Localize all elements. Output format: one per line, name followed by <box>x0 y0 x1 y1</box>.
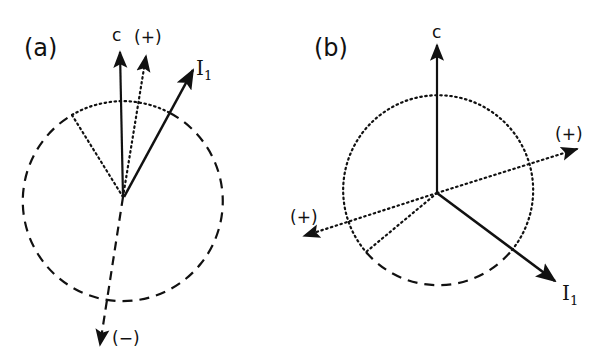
panel-b-plus-left-label: (+) <box>290 207 318 227</box>
panel-b-plus-right-vector <box>437 149 577 193</box>
panel-b-plus-left-vector <box>304 193 437 236</box>
panel-a-label: (a) <box>24 34 57 62</box>
panel-b-circle-dotted-arc <box>343 95 533 252</box>
panel-a-c-label: c <box>112 25 121 45</box>
panel-a-I1-label: I1 <box>196 56 212 83</box>
panel-a-minus-vector <box>100 197 123 345</box>
panel-b-I1-vector <box>437 193 555 281</box>
panel-b-label: (b) <box>314 34 348 62</box>
panel-a-minus-label: (−) <box>112 328 140 348</box>
panel-b-c-label: c <box>432 22 441 42</box>
panel-b: (b) c (+) (+) I1 <box>290 22 583 308</box>
panel-b-I1-label: I1 <box>562 281 578 308</box>
panel-a: (a) c (+) I1 (−) <box>23 25 223 348</box>
panel-b-circle-dashed-arc <box>366 250 512 285</box>
panel-a-plus-label: (+) <box>134 27 162 47</box>
panel-b-dotted-radius <box>366 193 437 252</box>
figure-canvas: (a) c (+) I1 (−) (b) c (+) <box>0 0 600 362</box>
panel-b-plus-right-label: (+) <box>555 124 583 144</box>
panel-a-dotted-radius <box>72 115 123 197</box>
panel-a-c-vector <box>120 52 123 197</box>
